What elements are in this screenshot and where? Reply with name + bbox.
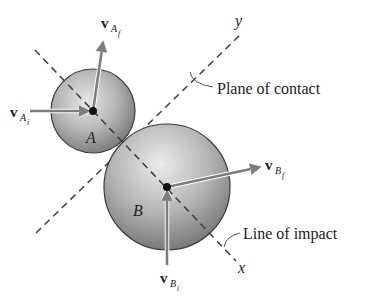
line-of-impact-leader — [224, 233, 240, 247]
svg-text:i: i — [27, 118, 29, 127]
va-initial-label: v A i — [10, 104, 29, 127]
va-final-label: v A f — [101, 15, 122, 38]
body-b-label: B — [133, 202, 143, 219]
svg-text:A: A — [19, 112, 27, 123]
vb-final-label: v B f — [265, 157, 286, 180]
svg-text:v: v — [10, 104, 18, 120]
plane-of-contact-leader — [190, 72, 213, 87]
svg-text:B: B — [170, 278, 176, 289]
svg-text:f: f — [118, 29, 122, 38]
svg-text:v: v — [101, 15, 109, 31]
vb-initial-label: v B i — [160, 270, 179, 293]
line-of-impact-label: Line of impact — [243, 225, 338, 243]
center-b-dot — [163, 183, 171, 191]
svg-text:i: i — [177, 284, 179, 293]
x-axis-label: x — [237, 259, 245, 276]
svg-text:A: A — [110, 23, 118, 34]
y-axis-label: y — [233, 12, 243, 30]
center-a-dot — [89, 107, 97, 115]
svg-text:v: v — [160, 270, 168, 286]
svg-text:f: f — [282, 171, 286, 180]
svg-text:v: v — [265, 157, 273, 173]
svg-text:B: B — [275, 165, 281, 176]
plane-of-contact-label: Plane of contact — [217, 80, 321, 97]
impact-diagram: A B y x v A i v A f v B i v B f Plane of… — [0, 0, 366, 299]
body-a-label: A — [85, 129, 96, 146]
